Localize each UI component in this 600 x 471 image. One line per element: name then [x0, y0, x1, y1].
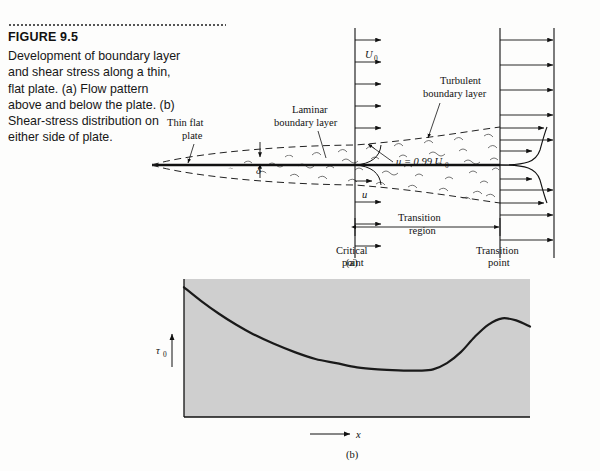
- freestream-velocity-label: U: [365, 49, 374, 60]
- transition-region-label-line2: region: [409, 225, 437, 236]
- svg-text:plate: plate: [182, 130, 203, 141]
- chart-y-axis-label-group: τ 0: [156, 334, 172, 367]
- transition-point-label-line1: Transition: [476, 245, 520, 256]
- boundary-layer-edge-lower: [152, 165, 500, 203]
- svg-text:boundary layer: boundary layer: [423, 88, 487, 99]
- panel-a-flow-pattern: δ U 0 u u = 0.99 U 0 Thin flat plate Lam…: [140, 18, 600, 266]
- turbulent-boundary-layer-annotation: Turbulent boundary layer: [423, 75, 487, 138]
- chart-plot-area: [184, 279, 530, 417]
- chart-x-axis-label: x: [355, 429, 361, 440]
- panel-b-caption: (b): [346, 449, 359, 461]
- chart-y-axis-label-subscript: 0: [163, 350, 167, 359]
- critical-point-label-line1: Critical: [336, 245, 368, 256]
- svg-text:0: 0: [445, 161, 449, 170]
- svg-text:Laminar: Laminar: [292, 104, 328, 115]
- svg-text:Turbulent: Turbulent: [440, 75, 481, 86]
- panel-b-shear-stress-chart: τ 0 x (b): [150, 262, 600, 471]
- figure-number: FIGURE 9.5: [8, 30, 78, 44]
- boundary-layer-edge-upper: [152, 127, 500, 165]
- svg-text:boundary layer: boundary layer: [274, 117, 338, 128]
- chart-x-axis-label-group: x: [310, 429, 361, 440]
- local-velocity-label: u: [362, 189, 367, 200]
- svg-text:u = 0.99 U: u = 0.99 U: [396, 156, 444, 167]
- figure-page: FIGURE 9.5 Development of boundary layer…: [0, 0, 600, 471]
- chart-y-axis-label: τ: [156, 345, 161, 356]
- transition-region-label-line1: Transition: [398, 212, 442, 223]
- freestream-velocity-subscript: 0: [374, 54, 378, 63]
- svg-text:Thin flat: Thin flat: [167, 117, 204, 128]
- velocity-profile-transition-point: [500, 28, 554, 258]
- delta-label: δ: [256, 165, 262, 176]
- laminar-boundary-layer-annotation: Laminar boundary layer: [274, 104, 338, 158]
